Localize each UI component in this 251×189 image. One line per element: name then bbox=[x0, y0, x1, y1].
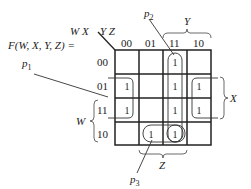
cell bbox=[187, 50, 211, 74]
cell: 1 bbox=[187, 98, 211, 122]
cell bbox=[115, 50, 139, 74]
brace-label-y: Y bbox=[184, 16, 190, 27]
row-header-10: 10 bbox=[97, 129, 108, 140]
cell: 1 bbox=[139, 122, 163, 146]
column-header-00: 00 bbox=[121, 38, 132, 49]
implicant-label-p2: p2 bbox=[144, 8, 154, 23]
cell: 1 bbox=[115, 74, 139, 98]
cell bbox=[187, 122, 211, 146]
cell: 1 bbox=[163, 122, 187, 146]
cell bbox=[115, 122, 139, 146]
brace-label-x: X bbox=[230, 93, 237, 104]
row-header-01: 01 bbox=[97, 81, 108, 92]
column-header-01: 01 bbox=[145, 38, 156, 49]
cell: 1 bbox=[163, 50, 187, 74]
column-header-10: 10 bbox=[193, 38, 204, 49]
row-header-11: 11 bbox=[97, 105, 108, 116]
cell: 1 bbox=[163, 74, 187, 98]
brace-label-w: W bbox=[76, 116, 85, 127]
cell: 1 bbox=[115, 98, 139, 122]
cell: 1 bbox=[187, 74, 211, 98]
implicant-label-p3: p3 bbox=[130, 174, 140, 189]
column-variables-label: Y Z bbox=[100, 26, 115, 37]
cell bbox=[139, 74, 163, 98]
column-header-11: 11 bbox=[169, 38, 180, 49]
cell bbox=[139, 50, 163, 74]
implicant-label-p1: p1 bbox=[22, 58, 32, 73]
cell: 1 bbox=[163, 98, 187, 122]
function-label: F(W, X, Y, Z) = bbox=[8, 40, 75, 51]
brace-label-z: Z bbox=[159, 160, 165, 171]
row-variables-label: W X bbox=[70, 26, 89, 37]
row-header-00: 00 bbox=[97, 57, 108, 68]
cell bbox=[139, 98, 163, 122]
